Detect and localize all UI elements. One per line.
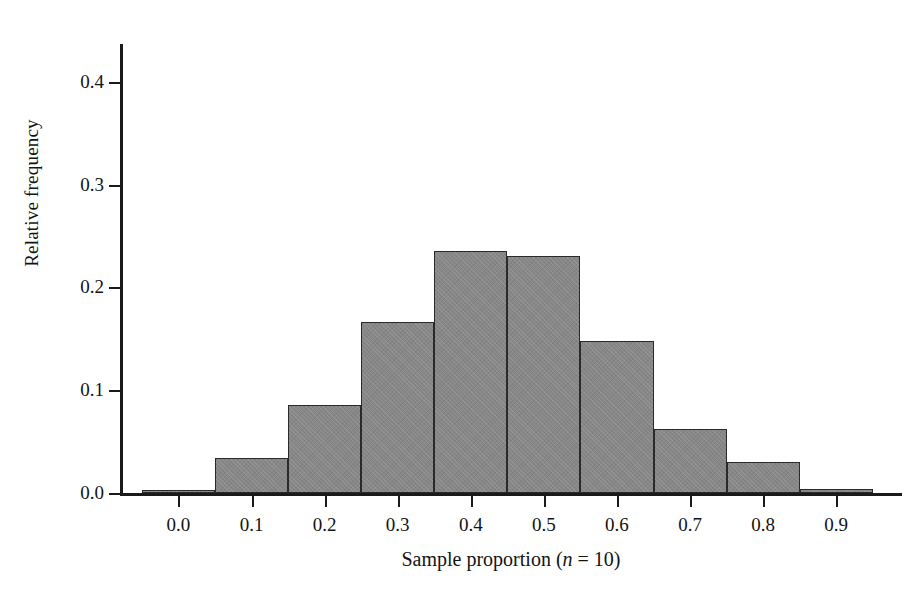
y-axis-tick-label: 0.1 — [80, 379, 104, 401]
x-axis-tick-mark — [325, 495, 327, 507]
x-axis-tick-label: 0.9 — [824, 514, 848, 536]
x-axis-tick-label: 0.3 — [386, 514, 410, 536]
x-axis-tick-label: 0.7 — [678, 514, 702, 536]
x-axis-tick-mark — [763, 495, 765, 507]
y-axis-tick-mark — [109, 82, 121, 84]
histogram-figure: Relative frequency 0.00.10.20.30.4 0.00.… — [0, 0, 911, 592]
histogram-bar — [580, 341, 653, 493]
x-axis-title-prefix: Sample proportion ( — [401, 548, 562, 570]
histogram-bar — [727, 462, 800, 493]
plot-area: 0.00.10.20.30.4 0.00.10.20.30.40.50.60.7… — [120, 44, 902, 496]
x-axis-tick-label: 0.5 — [532, 514, 556, 536]
histogram-bar — [654, 429, 727, 493]
histogram-bar — [507, 256, 580, 493]
x-axis-tick-mark — [617, 495, 619, 507]
x-axis-tick-mark — [836, 495, 838, 507]
x-axis-tick-label: 0.6 — [605, 514, 629, 536]
histogram-bar — [288, 405, 361, 493]
histogram-bar — [215, 458, 288, 493]
x-axis-tick-mark — [398, 495, 400, 507]
y-axis-tick-label: 0.0 — [80, 482, 104, 504]
y-axis-tick-mark — [109, 287, 121, 289]
y-axis-tick-mark — [109, 493, 121, 495]
y-axis-tick-label: 0.3 — [80, 173, 104, 195]
y-axis-tick-mark — [109, 185, 121, 187]
x-axis-tick-mark — [471, 495, 473, 507]
x-axis-tick-label: 0.0 — [167, 514, 191, 536]
x-axis-tick-label: 0.2 — [313, 514, 337, 536]
histogram-bar — [434, 251, 507, 494]
y-axis-title: Relative frequency — [21, 83, 43, 303]
x-axis-title-suffix: = 10) — [573, 548, 621, 570]
histogram-bar — [800, 489, 873, 493]
x-axis-tick-mark — [178, 495, 180, 507]
x-axis-tick-label: 0.8 — [751, 514, 775, 536]
y-axis-tick-mark — [109, 390, 121, 392]
x-axis-tick-mark — [690, 495, 692, 507]
x-axis-tick-mark — [544, 495, 546, 507]
x-axis-tick-label: 0.1 — [240, 514, 264, 536]
y-axis-tick-label: 0.4 — [80, 71, 104, 93]
x-axis-tick-label: 0.4 — [459, 514, 483, 536]
x-axis-tick-mark — [252, 495, 254, 507]
y-axis-line — [120, 44, 123, 496]
histogram-bar — [361, 322, 434, 493]
histogram-bar — [142, 490, 215, 493]
y-axis-tick-label: 0.2 — [80, 276, 104, 298]
x-axis-title-italic-n: n — [563, 548, 573, 570]
x-axis-line — [120, 493, 902, 496]
x-axis-title: Sample proportion (n = 10) — [120, 548, 902, 571]
